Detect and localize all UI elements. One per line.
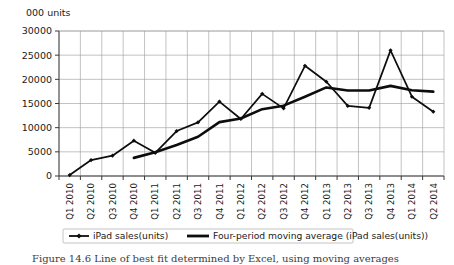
x-tick-label: Q4 2012: [300, 183, 310, 220]
x-tick-label: Q2 2010: [86, 183, 96, 220]
series-line-1: [134, 86, 433, 158]
y-tick-label: 5000: [28, 146, 52, 157]
x-tick-label: Q3 2013: [364, 183, 374, 220]
x-tick-label: Q4 2010: [129, 183, 139, 220]
x-tick-label: Q2 2011: [172, 183, 182, 220]
x-tick-label: Q1 2013: [322, 183, 332, 220]
x-tick-label: Q1 2012: [236, 183, 246, 220]
legend-label-moving-average: Four-period moving average (iPad sales(u…: [213, 230, 428, 241]
y-axis-title: 000 units: [26, 7, 71, 18]
x-tick-label: Q1 2014: [407, 183, 417, 220]
x-tick-label: Q4 2013: [386, 183, 396, 220]
x-tick-label: Q2 2012: [257, 183, 267, 220]
y-tick-label: 0: [46, 170, 52, 181]
x-tick-label: Q3 2011: [193, 183, 203, 220]
chart-legend: iPad sales(units)Four-period moving aver…: [63, 229, 428, 243]
x-tick-label: Q1 2011: [150, 183, 160, 220]
x-tick-label: Q2 2014: [429, 183, 439, 220]
legend-label-ipad-sales: iPad sales(units): [93, 230, 168, 241]
y-tick-label: 30000: [22, 25, 52, 36]
figure-caption: Figure 14.6 Line of best fit determined …: [32, 253, 450, 265]
y-tick-label: 25000: [22, 50, 52, 61]
x-tick-label: Q4 2011: [215, 183, 225, 220]
x-tick-label: Q3 2012: [279, 183, 289, 220]
y-tick-label: 20000: [22, 74, 52, 85]
x-tick-labels: Q1 2010Q2 2010Q3 2010Q4 2010Q1 2011Q2 20…: [65, 183, 439, 220]
x-tick-label: Q2 2013: [343, 183, 353, 220]
line-chart: 000 units050001000015000200002500030000Q…: [0, 0, 454, 265]
y-tick-label: 10000: [22, 122, 52, 133]
y-tick-label: 15000: [22, 98, 52, 109]
data-point-marker: [367, 106, 371, 110]
x-tick-label: Q3 2010: [108, 183, 118, 220]
gridlines: 050001000015000200002500030000: [22, 25, 444, 181]
x-tick-label: Q1 2010: [65, 183, 75, 220]
chart-figure: 000 units050001000015000200002500030000Q…: [0, 0, 454, 265]
